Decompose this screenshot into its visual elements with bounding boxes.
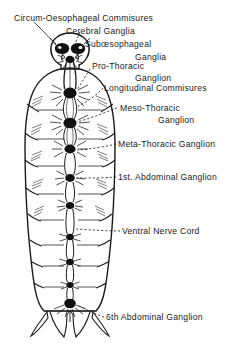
longitudinal-commisure-inner-left <box>67 127 68 145</box>
longitudinal-commisure-left <box>64 127 66 145</box>
figure-nervous-system-diagram: Circum-Oesophageal Commisures Cerebral G… <box>0 0 242 345</box>
2nd-abdominal-ganglion <box>66 202 74 209</box>
longitudinal-commisure-left <box>65 153 67 175</box>
nerve-hatch <box>32 179 43 189</box>
body-segment-lines <box>36 110 104 311</box>
longitudinal-commisure-left <box>67 288 68 300</box>
segment-edge-8 <box>34 283 44 288</box>
segment-edge-5 <box>28 214 41 221</box>
6th-abdominal-ganglion <box>64 299 76 309</box>
optic-highlight-right <box>79 46 83 49</box>
label-meso-thoracic-ganglion: Ganglion <box>158 116 194 125</box>
label-suboesophageal: Subœsophageal <box>85 40 151 49</box>
segment-edge-r5 <box>99 214 112 221</box>
nerve-hatch <box>95 206 105 216</box>
cercus-left <box>31 312 48 336</box>
5th-abdominal-ganglion <box>66 282 73 288</box>
segment-edge-2 <box>25 133 38 140</box>
3rd-abdominal-ganglion <box>66 234 74 240</box>
subgenital-plate-left <box>50 312 67 337</box>
longitudinal-commisure-inner-left <box>67 97 69 119</box>
longitudinal-commisure-left <box>66 265 67 282</box>
body-silhouette <box>25 68 115 311</box>
label-ventral-nerve-cord: Ventral Nerve Cord <box>122 227 200 236</box>
longitudinal-commisure-right <box>74 97 77 119</box>
pro-thoracic-ganglion <box>63 88 76 99</box>
label-circum-oesophageal-commisures: Circum-Oesophageal Commisures <box>14 14 153 23</box>
subgenital-plate-right <box>73 312 90 337</box>
segment-edge-6 <box>30 240 42 246</box>
longitudinal-commisure-right <box>73 265 74 282</box>
segment-edge-7 <box>32 262 43 267</box>
segment-edge-r6 <box>98 240 110 246</box>
label-meta-thoracic-ganglion: Meta-Thoracic Ganglion <box>118 140 215 149</box>
segment-edge-r8 <box>96 283 106 288</box>
1st-abdominal-ganglion <box>65 174 75 182</box>
cerebral-ganglion-right <box>71 43 85 54</box>
meso-thoracic-ganglion <box>63 118 76 128</box>
longitudinal-commisure-left <box>66 240 67 259</box>
leader-ventral-nerve-cord <box>76 229 120 231</box>
longitudinal-commisure-right <box>73 182 75 202</box>
nerve-hatch <box>31 124 42 135</box>
longitudinal-commisure-left <box>63 97 66 119</box>
longitudinal-commisure-left <box>66 209 67 234</box>
suboesophageal-ganglion <box>65 56 74 63</box>
ocellus-left <box>62 56 65 59</box>
nerve-hatch <box>96 96 107 107</box>
longitudinal-commisure-right <box>74 127 76 145</box>
longitudinal-commisure-right <box>73 209 74 234</box>
leader-1st-abdominal <box>77 177 116 178</box>
label-pro-thoracic: Pro-Thoracic <box>92 62 144 71</box>
longitudinal-commisure-right <box>73 240 74 259</box>
nerve-hatch <box>96 179 107 189</box>
longitudinal-commisure-right <box>74 153 76 175</box>
terminal-abdomen-cerci <box>31 311 109 338</box>
nerve-hatch <box>97 124 108 135</box>
label-meso-thoracic: Meso-Thoracic <box>120 104 180 113</box>
segment-edge-r7 <box>97 262 108 267</box>
lateral-nerve-branches <box>31 96 108 216</box>
terminal-nerve-arrow <box>67 311 73 323</box>
meta-thoracic-ganglion <box>64 145 75 154</box>
label-longitudinal-commisures: Longitudinal Commisures <box>104 84 207 93</box>
nerve-hatch <box>32 96 43 107</box>
nerve-hatch <box>97 151 108 161</box>
cerebral-ganglion-left <box>55 43 69 54</box>
segment-edge-r3 <box>102 160 115 167</box>
label-cerebral-ganglia: Cerebral Ganglia <box>66 27 135 36</box>
label-1st-abdominal-ganglion: 1st. Abdominal Ganglion <box>118 173 217 182</box>
label-6th-abdominal-ganglion: 6th Abdominal Ganglion <box>106 313 203 322</box>
segment-edge-r2 <box>102 133 115 140</box>
nerve-hatch <box>34 206 44 216</box>
leader-circum-oesophageal <box>34 22 60 50</box>
label-pro-thoracic-ganglion: Ganglion <box>135 74 171 83</box>
4th-abdominal-ganglion <box>66 259 74 265</box>
longitudinal-commisure-inner-right <box>72 97 74 119</box>
nerve-hatch <box>31 151 42 161</box>
longitudinal-commisure-inner-right <box>72 127 73 145</box>
segment-edge-r4 <box>101 188 114 195</box>
longitudinal-commisure-left <box>66 182 68 202</box>
longitudinal-commisure-right <box>73 288 74 300</box>
